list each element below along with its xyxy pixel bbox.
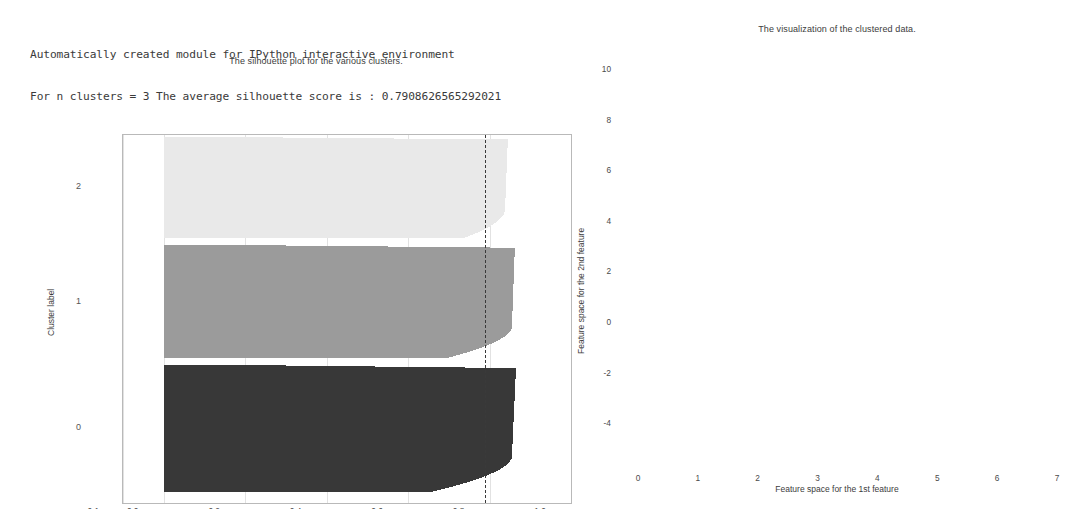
scatter-ytick: 8 — [593, 115, 611, 125]
scatter-ytick: -4 — [593, 418, 611, 428]
scatter-ytick: 4 — [593, 216, 611, 226]
scatter-xlabel: Feature space for the 1st feature — [617, 484, 1057, 494]
cluster-label-1: 1 — [76, 296, 81, 306]
scatter-ytick: 10 — [593, 64, 611, 74]
scatter-title: The visualization of the clustered data. — [617, 24, 1057, 34]
scatter-xtick: 6 — [995, 473, 1000, 483]
scatter-ytick: 6 — [593, 165, 611, 175]
silhouette-band-cluster-0 — [164, 365, 571, 492]
silhouette-ylabel: Cluster label — [46, 289, 56, 336]
gridline-vertical — [123, 135, 124, 503]
silhouette-band-cluster-2 — [164, 137, 571, 238]
cluster-label-0: 0 — [76, 422, 81, 432]
scatter-xtick: 4 — [875, 473, 880, 483]
scatter-xtick: 0 — [636, 473, 641, 483]
scatter-ytick: 0 — [593, 317, 611, 327]
scatter-figure: The visualization of the clustered data.… — [560, 24, 1080, 494]
silhouette-plot-area — [122, 134, 572, 504]
scatter-xtick: 1 — [696, 473, 701, 483]
average-score-line — [485, 135, 486, 503]
scatter-ytick: -2 — [593, 368, 611, 378]
scatter-xtick: 7 — [1055, 473, 1060, 483]
scatter-ylabel: Feature space for the 2nd feature — [576, 228, 586, 354]
cluster-label-2: 2 — [76, 181, 81, 191]
scatter-xtick: 5 — [935, 473, 940, 483]
scatter-xtick: 3 — [815, 473, 820, 483]
silhouette-band-cluster-1 — [164, 245, 571, 357]
silhouette-title: The silhouette plot for the various clus… — [92, 56, 540, 66]
scatter-xtick: 2 — [755, 473, 760, 483]
silhouette-figure: The silhouette plot for the various clus… — [30, 56, 590, 496]
scatter-ytick: 2 — [593, 266, 611, 276]
